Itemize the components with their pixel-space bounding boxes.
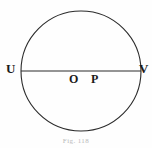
figure-caption: Fig. 118 xyxy=(0,137,152,145)
point-label-u: U xyxy=(6,62,15,75)
point-label-o: O xyxy=(69,73,78,85)
point-label-v: V xyxy=(139,62,148,75)
geometry-figure: U V O P Fig. 118 xyxy=(0,0,152,148)
point-label-p: P xyxy=(91,73,98,85)
